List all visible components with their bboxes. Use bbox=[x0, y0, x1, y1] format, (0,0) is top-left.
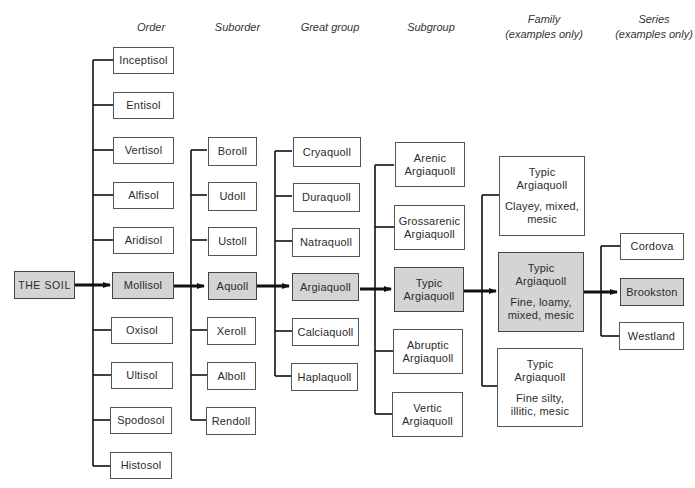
node-label: Oxisol bbox=[126, 324, 158, 337]
node-label: Westland bbox=[628, 330, 675, 343]
order-node: Ultisol bbox=[111, 362, 173, 389]
suborder-node: Xeroll bbox=[207, 317, 256, 345]
node-label-line1: Vertic bbox=[413, 402, 442, 415]
node-label: Vertisol bbox=[125, 144, 163, 157]
node-label: Histosol bbox=[121, 459, 162, 472]
great-group-node: Cryaquoll bbox=[293, 137, 361, 167]
series-node: Cordova bbox=[620, 233, 684, 260]
node-label: Aridisol bbox=[125, 234, 163, 247]
node-label-line1: Typic bbox=[528, 262, 555, 275]
order-node-selected: Mollisol bbox=[112, 272, 174, 299]
great-group-node: Haplaquoll bbox=[291, 363, 358, 391]
order-node: Vertisol bbox=[113, 137, 174, 164]
subgroup-node-selected: Typic Argiaquoll bbox=[394, 267, 464, 312]
node-label: Inceptisol bbox=[119, 54, 167, 67]
subgroup-node: Arenic Argiaquoll bbox=[395, 142, 465, 187]
node-label-line2: Argiaquoll bbox=[404, 290, 455, 303]
suborder-node: Boroll bbox=[208, 137, 257, 166]
family-node: Typic Argiaquoll Fine silty, illitic, me… bbox=[497, 348, 583, 427]
family-node: Typic Argiaquoll Clayey, mixed, mesic bbox=[499, 156, 585, 236]
node-label-line1: Grossarenic bbox=[399, 215, 461, 228]
node-label-line2: Argiaquoll bbox=[405, 165, 456, 178]
node-detail-line2: mixed, mesic bbox=[508, 309, 575, 322]
suborder-node: Udoll bbox=[208, 182, 257, 211]
node-label: Natraquoll bbox=[300, 236, 352, 249]
suborder-node-selected: Aquoll bbox=[208, 272, 257, 300]
root-node-the-soil: THE SOIL bbox=[14, 271, 75, 299]
node-label-line2: Argiaquoll bbox=[402, 415, 453, 428]
suborder-node: Alboll bbox=[207, 362, 256, 390]
suborder-node: Ustoll bbox=[208, 227, 257, 256]
node-detail-line2: illitic, mesic bbox=[511, 405, 569, 418]
node-label: Entisol bbox=[126, 99, 160, 112]
node-label: Ultisol bbox=[126, 369, 157, 382]
node-label-line1: Typic bbox=[529, 166, 556, 179]
header-order: Order bbox=[131, 20, 171, 35]
node-label: Calciaquoll bbox=[297, 326, 353, 339]
node-detail-line1: Clayey, mixed, bbox=[505, 200, 579, 213]
header-series-title: Series bbox=[612, 12, 695, 27]
node-label-line2: Argiaquoll bbox=[516, 275, 567, 288]
series-node: Westland bbox=[619, 322, 684, 350]
node-label-line1: Arenic bbox=[414, 152, 446, 165]
node-label-line1: Abruptic bbox=[407, 339, 449, 352]
node-label: Brookston bbox=[626, 286, 677, 299]
node-label: Aquoll bbox=[217, 280, 249, 293]
node-label: Rendoll bbox=[212, 415, 251, 428]
header-family-title: Family bbox=[502, 12, 586, 27]
subgroup-node: Abruptic Argiaquoll bbox=[393, 329, 463, 374]
order-node: Alfisol bbox=[113, 182, 174, 209]
header-series-note: (examples only) bbox=[612, 27, 695, 42]
node-label: Udoll bbox=[219, 190, 245, 203]
subgroup-node: Grossarenic Argiaquoll bbox=[394, 205, 465, 250]
header-subgroup: Subgroup bbox=[403, 20, 459, 35]
great-group-node: Calciaquoll bbox=[292, 318, 359, 346]
node-label: Mollisol bbox=[124, 279, 162, 292]
node-label-line2: Argiaquoll bbox=[515, 371, 566, 384]
order-node: Aridisol bbox=[113, 227, 174, 254]
node-label: Boroll bbox=[218, 145, 247, 158]
node-label: Cryaquoll bbox=[303, 146, 351, 159]
node-label: Spodosol bbox=[117, 414, 164, 427]
node-label: Argiaquoll bbox=[300, 281, 351, 294]
node-label-line2: Argiaquoll bbox=[404, 228, 455, 241]
great-group-node: Duraquoll bbox=[293, 183, 360, 212]
node-label: Ustoll bbox=[218, 235, 247, 248]
node-label: Alfisol bbox=[128, 189, 159, 202]
node-label: Haplaquoll bbox=[298, 371, 352, 384]
node-label: Xeroll bbox=[217, 325, 246, 338]
node-label: Cordova bbox=[631, 240, 674, 253]
order-node: Histosol bbox=[110, 452, 172, 479]
node-label-line2: Argiaquoll bbox=[403, 352, 454, 365]
great-group-node: Natraquoll bbox=[292, 228, 360, 257]
header-family: Family (examples only) bbox=[502, 12, 586, 42]
node-label-line2: Argiaquoll bbox=[517, 179, 568, 192]
header-series: Series (examples only) bbox=[612, 12, 695, 42]
header-suborder: Suborder bbox=[210, 20, 265, 35]
great-group-node-selected: Argiaquoll bbox=[292, 273, 359, 301]
header-family-note: (examples only) bbox=[502, 27, 586, 42]
order-node: Spodosol bbox=[110, 407, 172, 434]
order-node: Inceptisol bbox=[113, 47, 174, 74]
node-detail-line1: Fine, loamy, bbox=[510, 296, 572, 309]
node-detail-line1: Fine silty, bbox=[516, 392, 564, 405]
node-detail-line2: mesic bbox=[527, 213, 557, 226]
node-label: Duraquoll bbox=[302, 191, 351, 204]
node-label: Alboll bbox=[217, 370, 245, 383]
subgroup-node: Vertic Argiaquoll bbox=[392, 392, 463, 437]
header-great-group: Great group bbox=[298, 20, 362, 35]
node-label-line1: Typic bbox=[527, 358, 554, 371]
node-label: THE SOIL bbox=[18, 279, 71, 292]
soil-taxonomy-diagram: Order Suborder Great group Subgroup Fami… bbox=[0, 0, 695, 488]
node-label-line1: Typic bbox=[416, 277, 443, 290]
suborder-node: Rendoll bbox=[206, 407, 256, 435]
series-node-selected: Brookston bbox=[620, 278, 684, 306]
order-node: Oxisol bbox=[111, 317, 173, 344]
family-node-selected: Typic Argiaquoll Fine, loamy, mixed, mes… bbox=[498, 252, 584, 332]
order-node: Entisol bbox=[113, 92, 174, 119]
